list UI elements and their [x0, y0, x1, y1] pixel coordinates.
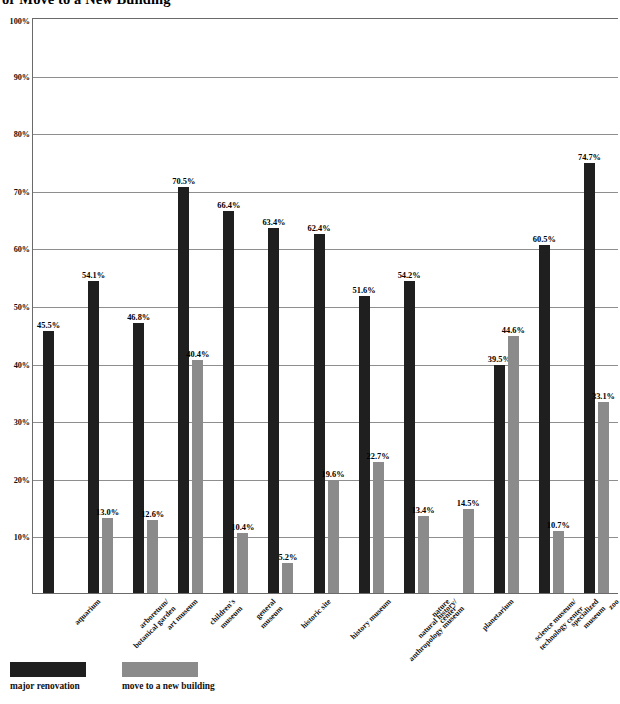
- bar-major: 63.4%: [268, 228, 279, 593]
- bar-major: 60.5%: [539, 245, 550, 593]
- bar-move: 13.4%: [418, 516, 429, 593]
- bar-value-label: 19.6%: [321, 470, 344, 479]
- bar-move: 12.6%: [147, 520, 158, 593]
- bar-value-label: 60.5%: [533, 235, 556, 244]
- bar-move: 19.6%: [328, 480, 339, 593]
- bar-move: 10.7%: [553, 531, 564, 593]
- bar-move: 14.5%: [463, 509, 474, 593]
- gridline: [33, 365, 618, 366]
- bar-major: 54.2%: [404, 281, 415, 593]
- bar-move: 10.4%: [237, 533, 248, 593]
- legend-swatch: [122, 662, 198, 677]
- y-axis-tick-label: 40%: [14, 360, 30, 369]
- bar-move: 40.4%: [192, 360, 203, 593]
- gridline: [33, 480, 618, 481]
- bar-major: 51.6%: [359, 296, 370, 593]
- bar-move: 22.7%: [373, 462, 384, 593]
- bar-move: 13.0%: [102, 518, 113, 593]
- gridline: [33, 537, 618, 538]
- x-axis-tick-label: children'smuseum: [207, 597, 244, 634]
- x-axis-tick-label: aquarium: [72, 597, 102, 627]
- y-axis-tick-label: 60%: [14, 245, 30, 254]
- bar-major: 70.5%: [178, 187, 189, 593]
- y-axis-tick-label: 90%: [14, 72, 30, 81]
- bar-major: 46.8%: [133, 323, 144, 593]
- bar-value-label: 74.7%: [578, 153, 601, 162]
- legend-item[interactable]: major renovation: [10, 662, 86, 691]
- gridline: [33, 422, 618, 423]
- y-axis-tick-label: 30%: [14, 418, 30, 427]
- bar-value-label: 33.1%: [592, 392, 615, 401]
- legend-item[interactable]: move to a new building: [122, 662, 215, 691]
- bar-value-label: 54.2%: [398, 271, 421, 280]
- bar-move: 44.6%: [508, 336, 519, 593]
- x-axis-tick-label: zoo: [607, 597, 620, 612]
- gridline: [33, 77, 618, 78]
- gridline: [33, 19, 618, 20]
- y-axis-tick-label: 80%: [14, 130, 30, 139]
- bar-move: 33.1%: [598, 402, 609, 593]
- bar-value-label: 14.5%: [457, 499, 480, 508]
- y-axis-tick-label: 20%: [14, 475, 30, 484]
- x-axis-tick-label: natural history/anthropology museum: [400, 597, 466, 663]
- bar-value-label: 44.6%: [502, 326, 525, 335]
- bar-major: 39.5%: [494, 365, 505, 593]
- chart-plot-area: 100%90%80%70%60%50%40%30%20%10% 45.5%54.…: [32, 18, 618, 594]
- bar-major: 45.5%: [43, 331, 54, 593]
- legend-label: move to a new building: [122, 681, 215, 691]
- y-axis-tick-label: 50%: [14, 303, 30, 312]
- bar-value-label: 12.6%: [141, 510, 164, 519]
- bar-major: 66.4%: [223, 211, 234, 593]
- gridline: [33, 249, 618, 250]
- bar-value-label: 46.8%: [127, 313, 150, 322]
- bar-value-label: 63.4%: [262, 218, 285, 227]
- bar-value-label: 51.6%: [353, 286, 376, 295]
- bar-value-label: 40.4%: [186, 350, 209, 359]
- x-axis-tick-label: history museum: [349, 597, 394, 642]
- bar-move: 5.2%: [282, 563, 293, 593]
- bar-value-label: 62.4%: [307, 224, 330, 233]
- gridline: [33, 192, 618, 193]
- page-title: or Move to a New Building: [2, 0, 171, 8]
- gridline: [33, 134, 618, 135]
- chart-legend: major renovationmove to a new building: [10, 662, 215, 691]
- bar-value-label: 10.4%: [231, 523, 254, 532]
- bar-value-label: 10.7%: [547, 521, 570, 530]
- bar-value-label: 13.0%: [96, 508, 119, 517]
- gridline: [33, 307, 618, 308]
- x-axis-tick-label: planetarium: [480, 597, 516, 633]
- x-axis-tick-label: generalmuseum: [251, 597, 284, 630]
- y-axis-tick-label: 10%: [14, 533, 30, 542]
- bar-value-label: 5.2%: [279, 553, 298, 562]
- x-axis-labels: aquariumarboretum/botanical gardenart mu…: [32, 597, 618, 659]
- y-axis-tick-label: 70%: [14, 187, 30, 196]
- bar-value-label: 66.4%: [217, 201, 240, 210]
- bar-major: 62.4%: [314, 234, 325, 593]
- bar-value-label: 22.7%: [367, 452, 390, 461]
- legend-swatch: [10, 662, 86, 677]
- bar-value-label: 13.4%: [412, 506, 435, 515]
- y-axis-tick-label: 100%: [10, 17, 30, 26]
- x-axis-tick-label: historic site: [299, 597, 333, 631]
- legend-label: major renovation: [10, 681, 86, 691]
- bar-value-label: 45.5%: [37, 321, 60, 330]
- bar-major: 74.7%: [584, 163, 595, 593]
- bar-major: 54.1%: [88, 281, 99, 593]
- bar-value-label: 54.1%: [82, 271, 105, 280]
- bar-value-label: 70.5%: [172, 177, 195, 186]
